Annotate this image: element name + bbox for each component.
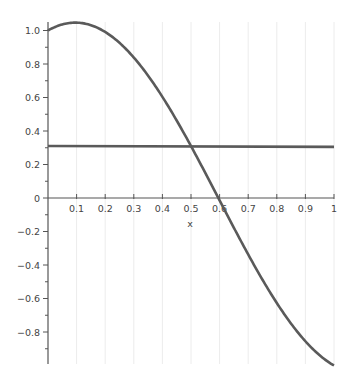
x-tick-label: 1 bbox=[331, 203, 337, 214]
x-tick-label: 0.2 bbox=[98, 203, 113, 214]
y-tick-label: 0.6 bbox=[25, 92, 40, 103]
x-axis-label: x bbox=[187, 218, 193, 229]
y-tick-label: 0.4 bbox=[25, 126, 40, 137]
y-tick-label: −0.6 bbox=[17, 293, 40, 304]
y-tick-label: 0.2 bbox=[25, 159, 40, 170]
x-tick-label: 0.3 bbox=[126, 203, 141, 214]
x-axis-ticks: 0.10.20.30.40.50.60.70.80.91 bbox=[69, 194, 337, 214]
x-tick-label: 0.4 bbox=[155, 203, 170, 214]
y-tick-label: −0.8 bbox=[17, 327, 40, 338]
y-axis-ticks: 1.00.80.60.40.20−0.2−0.4−0.6−0.8 bbox=[17, 25, 48, 349]
y-tick-label: 1.0 bbox=[25, 25, 40, 36]
y-tick-label: −0.2 bbox=[17, 226, 40, 237]
x-tick-label: 0.1 bbox=[69, 203, 84, 214]
x-tick-label: 0.5 bbox=[183, 203, 198, 214]
y-tick-label: 0 bbox=[34, 193, 40, 204]
line-chart: 1.00.80.60.40.20−0.2−0.4−0.6−0.8 0.10.20… bbox=[0, 0, 345, 391]
x-tick-label: 0.8 bbox=[269, 203, 284, 214]
vertical-gridlines bbox=[77, 22, 334, 364]
series-line-constant bbox=[48, 146, 334, 147]
x-tick-label: 0.9 bbox=[298, 203, 313, 214]
y-tick-label: 0.8 bbox=[25, 59, 40, 70]
x-tick-label: 0.7 bbox=[241, 203, 256, 214]
y-tick-label: −0.4 bbox=[17, 260, 40, 271]
